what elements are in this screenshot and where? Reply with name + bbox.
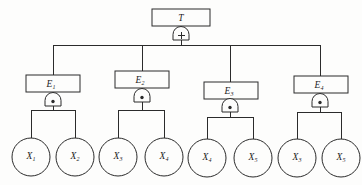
and-gate-e4[interactable] bbox=[312, 94, 328, 108]
node-top-event-t[interactable]: T bbox=[152, 9, 210, 26]
and-gate-e1-shape[interactable] bbox=[45, 93, 61, 107]
and-gate-e3[interactable] bbox=[222, 99, 238, 113]
or-gate[interactable] bbox=[173, 27, 189, 41]
and-gate-e1[interactable] bbox=[45, 93, 61, 107]
node-basic-event-x4[interactable]: X4 bbox=[145, 138, 183, 176]
fault-tree-diagram: T E1 E2 bbox=[0, 0, 362, 185]
top-event-label: T bbox=[178, 13, 184, 23]
and-gate-e4-shape[interactable] bbox=[312, 94, 328, 108]
node-basic-event-x3[interactable]: X3 bbox=[99, 138, 137, 176]
node-basic-event-x3b[interactable]: X3 bbox=[278, 139, 316, 177]
node-intermediate-e2[interactable]: E2 bbox=[115, 71, 169, 88]
and-gate-e2[interactable] bbox=[134, 89, 150, 103]
fault-tree-canvas: T E1 E2 bbox=[0, 0, 362, 185]
and-gate-e3-dot-icon bbox=[228, 106, 231, 109]
and-gate-e4-dot-icon bbox=[318, 101, 321, 104]
and-gate-e1-dot-icon bbox=[51, 100, 54, 103]
node-intermediate-e3[interactable]: E3 bbox=[204, 82, 258, 99]
node-basic-event-x1[interactable]: X1 bbox=[12, 138, 50, 176]
and-gate-e2-shape[interactable] bbox=[134, 89, 150, 103]
and-gate-e2-dot-icon bbox=[140, 96, 143, 99]
node-basic-event-x5b[interactable]: X5 bbox=[322, 139, 360, 177]
node-basic-event-x5[interactable]: X5 bbox=[234, 139, 272, 177]
node-intermediate-e4[interactable]: E4 bbox=[294, 76, 348, 93]
node-intermediate-e1[interactable]: E1 bbox=[26, 75, 80, 92]
and-gate-e3-shape[interactable] bbox=[222, 99, 238, 113]
node-basic-event-x2[interactable]: X2 bbox=[56, 138, 94, 176]
node-basic-event-x4b[interactable]: X4 bbox=[188, 139, 226, 177]
